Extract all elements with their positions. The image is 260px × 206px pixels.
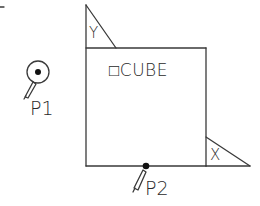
x-axis-label: X	[210, 148, 220, 163]
p1-dot-icon	[35, 69, 41, 75]
y-axis-label: Y	[89, 26, 98, 41]
diagram-canvas: Y X □CUBE P1 P2	[0, 0, 260, 206]
p1-label: P1	[30, 99, 54, 118]
p2-marker[interactable]	[143, 163, 150, 170]
cube-label: □CUBE	[109, 62, 168, 79]
cube-square	[86, 5, 206, 166]
p2-dot-icon	[143, 163, 150, 170]
p2-label: P2	[145, 179, 169, 198]
p1-marker[interactable]	[27, 61, 49, 83]
